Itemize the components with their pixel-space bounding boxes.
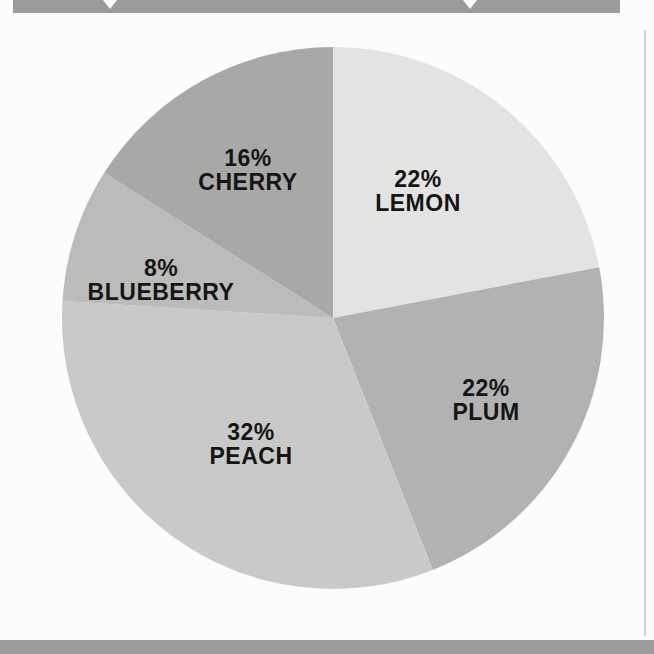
pie-label-cherry-name: CHERRY [198, 170, 297, 194]
pie-label-plum-name: PLUM [452, 400, 519, 424]
pie-chart-canvas [0, 0, 654, 654]
pie-label-blueberry-percent: 8% [88, 256, 235, 280]
pie-label-blueberry: 8% BLUEBERRY [88, 256, 235, 304]
bottom-banner [0, 640, 654, 654]
pie-label-plum-percent: 22% [452, 376, 519, 400]
pie-label-lemon-name: LEMON [375, 191, 461, 215]
worksheet-page: 22% LEMON 22% PLUM 32% PEACH 8% BLUEBERR… [0, 0, 654, 654]
pie-label-peach-percent: 32% [209, 420, 292, 444]
pie-label-lemon: 22% LEMON [375, 167, 461, 215]
pie-label-plum: 22% PLUM [452, 376, 519, 424]
pie-label-cherry: 16% CHERRY [198, 146, 297, 194]
pie-label-lemon-percent: 22% [375, 167, 461, 191]
page-edge-line [644, 30, 646, 636]
pie-label-blueberry-name: BLUEBERRY [88, 280, 235, 304]
pie-label-cherry-percent: 16% [198, 146, 297, 170]
pie-chart: 22% LEMON 22% PLUM 32% PEACH 8% BLUEBERR… [0, 0, 654, 654]
pie-label-peach-name: PEACH [209, 444, 292, 468]
pie-label-peach: 32% PEACH [209, 420, 292, 468]
